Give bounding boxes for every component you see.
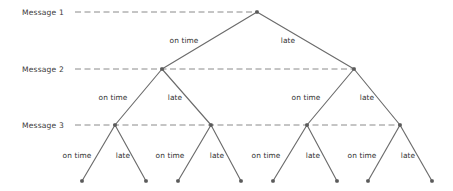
edge-label-n22-l8: late bbox=[401, 151, 415, 160]
tree-node-n21 bbox=[305, 123, 309, 127]
tree-edge-root-n2 bbox=[257, 12, 354, 69]
tree-node-n11 bbox=[113, 123, 117, 127]
edge-label-n21-l6: late bbox=[306, 151, 320, 160]
level-label-2: Message 2 bbox=[22, 65, 64, 74]
edge-label-root-n2: late bbox=[281, 36, 295, 45]
tree-node-n2 bbox=[352, 67, 356, 71]
tree-canvas bbox=[0, 0, 453, 191]
tree-node-l1 bbox=[80, 179, 84, 183]
tree-node-n22 bbox=[398, 123, 402, 127]
edge-label-n11-l1: on time bbox=[63, 151, 92, 160]
tree-node-n12 bbox=[209, 123, 213, 127]
tree-node-l4 bbox=[239, 179, 243, 183]
tree-node-n1 bbox=[160, 67, 164, 71]
tree-node-l5 bbox=[271, 179, 275, 183]
edge-label-n21-l5: on time bbox=[252, 151, 281, 160]
tree-node-l2 bbox=[144, 179, 148, 183]
decision-tree-figure: Message 1Message 2Message 3 on timelateo… bbox=[0, 0, 453, 191]
edge-label-n1-n12: late bbox=[168, 93, 182, 102]
level-dashed-lines bbox=[75, 12, 400, 125]
tree-node-root bbox=[255, 10, 259, 14]
edge-label-n2-n22: late bbox=[360, 93, 374, 102]
edge-label-n22-l7: on time bbox=[348, 151, 377, 160]
level-label-1: Message 1 bbox=[22, 8, 64, 17]
level-label-3: Message 3 bbox=[22, 121, 64, 130]
edge-label-n12-l4: late bbox=[210, 151, 224, 160]
tree-node-l8 bbox=[430, 179, 434, 183]
edge-label-n11-l2: late bbox=[116, 151, 130, 160]
edge-label-root-n1: on time bbox=[170, 36, 199, 45]
edge-label-n12-l3: on time bbox=[156, 151, 185, 160]
tree-node-l3 bbox=[176, 179, 180, 183]
edge-label-n1-n11: on time bbox=[99, 93, 128, 102]
tree-node-l6 bbox=[335, 179, 339, 183]
edge-label-n2-n21: on time bbox=[292, 93, 321, 102]
tree-node-l7 bbox=[366, 179, 370, 183]
